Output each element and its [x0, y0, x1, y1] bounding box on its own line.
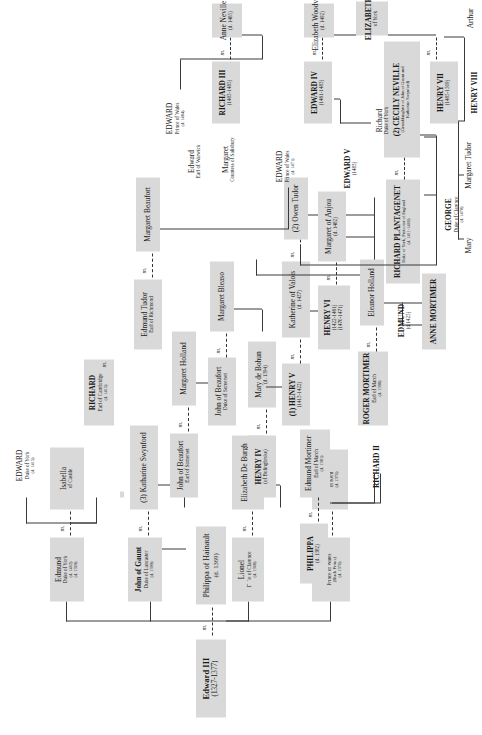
marriage-symbol: m.	[218, 49, 225, 55]
person-detail: Duke of Somerset	[223, 373, 229, 410]
person-george-duke-clarence	[440, 259, 444, 265]
marriage-symbol: m.	[324, 274, 331, 280]
person-henry-v: (1) HENRY V (1413-1422)	[282, 363, 310, 425]
person-george-clarence	[436, 169, 440, 175]
marriage-symbol: m.	[288, 251, 295, 257]
person-henry-vi: HENRY VI (1422-1461) (1470-1471)	[318, 285, 350, 349]
marriage-label: m.	[254, 423, 261, 429]
person-detail-2: Katherine Swynford)	[406, 80, 411, 117]
person-roger-mortimer: ROGER MORTIMER Earl of March (d. 1398)	[358, 351, 388, 425]
person-henry-iv: HENRY IV (of Bolingbroke)	[248, 435, 276, 497]
marriage-label: m.	[214, 347, 221, 353]
marriage-symbol: m.	[100, 361, 107, 367]
person-detail: (d. 1382)	[315, 544, 321, 563]
person-philippa-of-hainault: Philippa of Hainault (d. 1369)	[196, 526, 226, 604]
person-john-beaufort-duke-of-somerset: John of Beaufort Duke of Somerset	[208, 357, 236, 425]
person-detail: Earl of Somerset	[185, 448, 191, 482]
person-margaret-holland: Margaret Holland	[172, 331, 196, 405]
person-name: RICHARD II	[373, 445, 381, 488]
person-margaret-bleaso: Margaret Bleaso	[210, 261, 234, 331]
person-detail-2: (d. 1471)	[291, 158, 296, 174]
person-edmund-tudor: Edmund Tudor Earl of Richmond	[134, 279, 162, 349]
person-john-beaufort-earl-of-somerset: John of Beaufort Earl of Somerset	[170, 433, 198, 497]
person-detail-2: (d. 1478)	[460, 206, 465, 222]
person-detail-2: (d. 1411-1460)	[407, 218, 412, 244]
person-edward-warwick	[176, 169, 180, 175]
person-anne-mortimer: ANNE MORTIMER	[422, 273, 446, 349]
marriage-label: m.	[100, 361, 107, 367]
person-detail-2: (d. 1415)	[104, 384, 109, 400]
person-blanche-of-lancaster	[248, 579, 252, 585]
person-detail-2: (1470-1471)	[338, 304, 344, 329]
person-philippa-mortimer: PHILIPPA (d. 1382)	[300, 523, 328, 583]
marriage-symbol: m.	[288, 353, 295, 359]
person-elizabeth-of-york: ELIZABETH of York	[356, 1, 388, 35]
person-name: HENRY VIII	[471, 71, 479, 113]
person-detail: (d. 1485)	[228, 11, 234, 30]
person-name: Arthur	[467, 8, 475, 28]
person-detail: (1413-1422)	[297, 381, 303, 406]
marriage-label: m.	[364, 341, 371, 347]
person-eleanor-holland: Eleanor Holland	[360, 259, 384, 325]
marriage-label: m.	[218, 49, 225, 55]
person-detail-3: (d. 1369)	[74, 561, 79, 577]
person-edmund-mortimer-earl-of-march: Edmund Mortimer Earl of March (d. 1381)	[300, 429, 330, 497]
marriage-symbol: m.	[200, 624, 207, 630]
person-mary-tudor: Mary	[460, 225, 478, 265]
marriage-symbol: m.	[136, 525, 143, 531]
person-henry-viii: HENRY VIII	[466, 61, 482, 123]
person-edward-v-box: EDWARD V (1483)	[338, 139, 364, 197]
person-blanche-box	[128, 579, 132, 585]
person-detail-2: (d. 1381)	[320, 455, 325, 471]
person-richard-earl-of-cambridge: RICHARD Earl of Cambridge (d. 1415)	[84, 359, 114, 425]
person-detail: Earl of Richmond	[149, 296, 155, 333]
person-detail: (d.1425)	[406, 311, 412, 328]
person-name: Philippa of Hainault	[203, 533, 212, 597]
person-margaret-beaufort: Margaret Beaufort	[136, 177, 160, 251]
person-detail: (d. 1437)	[297, 290, 303, 309]
person-detail: (1485-1509)	[445, 79, 451, 104]
person-richard-ii: RICHARD II	[366, 435, 388, 497]
person-name: Eleanor Holland	[368, 268, 376, 317]
person-john-of-gaunt: John of Gaunt Duke of Lancaster (d. 1399…	[128, 537, 162, 601]
person-detail: of Castile	[68, 468, 74, 488]
person-detail: (1461-1483)	[319, 79, 325, 104]
person-richard-plantagenet: RICHARD PLANTAGENET Duke of York, Protec…	[386, 179, 420, 283]
person-detail: Countess of Salisbury	[230, 137, 236, 182]
person-mary-de-bohun: Mary de Bohun (d. 1394)	[248, 341, 276, 407]
person-katherine-of-valois: Katherine of Valois (d. 1437)	[282, 261, 310, 337]
person-edward-of-warwick	[480, 191, 482, 197]
person-edward-v	[388, 61, 392, 67]
marriage-symbol: m.	[58, 525, 65, 531]
marriage-label: m.	[324, 274, 331, 280]
person-detail-2: (d. 1376)	[335, 471, 340, 487]
person-detail: (d. 1482)	[333, 217, 339, 236]
marriage-label: m.	[176, 421, 183, 427]
person-richard-iii: RICHARD III (1483-1485)	[212, 61, 240, 123]
marriage-symbol: m.	[254, 423, 261, 429]
person-detail: Earl of Warwick	[196, 144, 202, 177]
marriage-label: m.	[200, 624, 207, 630]
person-edward-iii: Edward III (1327-1377)	[196, 639, 226, 717]
marriage-label: m.	[58, 525, 65, 531]
person-edmund-mortimer-1425: EDMUND (d.1425)	[392, 291, 418, 349]
person-detail: (1327-1377)	[212, 660, 220, 696]
marriage-symbol: m.	[364, 341, 371, 347]
person-edmund-duke-of-york: Edmund Duke of York (d. 1402) (d. 1369)	[50, 537, 84, 601]
person-detail-2: (d. 1484)	[181, 110, 186, 126]
person-edward-warwick-label: Edward Earl of Warwick	[182, 127, 208, 195]
person-arthur: Arthur	[462, 1, 480, 35]
person-name: Margaret Tudor	[465, 142, 473, 188]
person-name: Mary	[465, 237, 473, 253]
marriage-symbol: m.	[424, 49, 431, 55]
marriage-label: m.	[288, 251, 295, 257]
marriage-symbol: m.	[240, 525, 247, 531]
person-anne-neville: Anne Neville (d. 1485)	[212, 3, 242, 37]
marriage-label: m.	[424, 49, 431, 55]
person-detail: of York	[373, 10, 379, 25]
marriage-label: m.	[140, 267, 147, 273]
marriage-symbol: m.	[306, 511, 313, 517]
person-detail: (d. 1492)	[320, 11, 326, 30]
marriage-label: m.	[136, 525, 143, 531]
